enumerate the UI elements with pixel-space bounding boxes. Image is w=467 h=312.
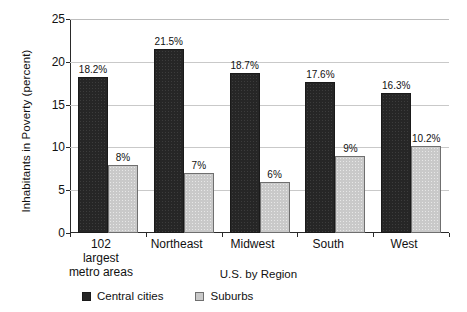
bar-value-label: 18.7% xyxy=(230,60,258,73)
y-tick-label: 0 xyxy=(58,226,65,240)
y-tick-label: 5 xyxy=(58,183,65,197)
bar-value-label: 9% xyxy=(343,143,357,156)
y-tick-mark xyxy=(66,19,70,20)
legend-swatch-icon xyxy=(82,292,91,301)
poverty-by-region-bar-chart: Inhabitants in Poverty (percent) 0510152… xyxy=(0,0,467,312)
bar-value-label: 21.5% xyxy=(155,36,183,49)
legend-label: Central cities xyxy=(97,290,163,302)
y-tick-mark xyxy=(66,105,70,106)
bar-value-label: 17.6% xyxy=(306,69,334,82)
gridline xyxy=(70,19,449,20)
bar-suburbs xyxy=(260,182,290,233)
y-tick-mark xyxy=(66,147,70,148)
y-tick-label: 10 xyxy=(52,140,65,154)
category-label-line: South xyxy=(313,237,344,251)
bar-suburbs xyxy=(411,146,441,233)
category-label-line: Northeast xyxy=(151,237,203,251)
bar-value-label: 18.2% xyxy=(79,64,107,77)
bar-suburbs xyxy=(335,156,365,233)
legend-label: Suburbs xyxy=(210,290,253,302)
category-label-line: West xyxy=(391,237,418,251)
bar-suburbs xyxy=(108,165,138,233)
bar-central-cities xyxy=(78,77,108,233)
category-label: South xyxy=(313,237,344,251)
category-label-line: largest xyxy=(69,251,133,265)
category-label-line: Midwest xyxy=(230,237,274,251)
x-tick-mark xyxy=(146,233,147,237)
bar-suburbs xyxy=(184,173,214,233)
bar-central-cities xyxy=(381,93,411,233)
y-tick-label: 20 xyxy=(52,55,65,69)
category-label-line: metro areas xyxy=(69,265,133,279)
bar-value-label: 8% xyxy=(116,152,130,165)
legend-swatch-icon xyxy=(195,292,204,301)
category-label: Midwest xyxy=(230,237,274,251)
y-tick-mark xyxy=(66,62,70,63)
y-axis-title: Inhabitants in Poverty (percent) xyxy=(20,11,32,251)
x-tick-mark xyxy=(449,233,450,237)
bar-central-cities xyxy=(230,73,260,233)
x-axis-title-text: U.S. by Region xyxy=(220,268,297,280)
plot-area: 051015202518.2%8%21.5%7%18.7%6%17.6%9%16… xyxy=(70,19,449,233)
bar-value-label: 16.3% xyxy=(382,80,410,93)
chart-legend: Central citiesSuburbs xyxy=(82,290,285,302)
x-tick-mark xyxy=(297,233,298,237)
category-label: 102largestmetro areas xyxy=(69,237,133,279)
x-tick-mark xyxy=(373,233,374,237)
y-tick-mark xyxy=(66,190,70,191)
category-label-line: 102 xyxy=(69,237,133,251)
y-tick-label: 15 xyxy=(52,98,65,112)
bar-value-label: 10.2% xyxy=(412,133,440,146)
y-axis-line xyxy=(70,19,71,233)
category-label: West xyxy=(391,237,418,251)
bar-central-cities xyxy=(154,49,184,233)
bar-central-cities xyxy=(305,82,335,233)
legend-item: Central cities xyxy=(82,290,163,302)
bar-value-label: 7% xyxy=(192,160,206,173)
legend-item: Suburbs xyxy=(195,290,253,302)
y-tick-label: 25 xyxy=(52,12,65,26)
x-tick-mark xyxy=(222,233,223,237)
category-label: Northeast xyxy=(151,237,203,251)
gridline xyxy=(70,62,449,63)
bar-value-label: 6% xyxy=(267,169,281,182)
